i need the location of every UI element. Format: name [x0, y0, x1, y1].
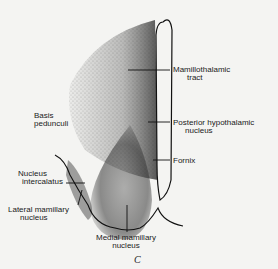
label-basis-pedunculi: Basis pedunculi — [34, 112, 68, 128]
label-lateral-mamillary-nucleus: Lateral mamillary nucleus — [8, 206, 69, 222]
label-fornix: Fornix — [173, 157, 195, 165]
label-medial-mamillary-nucleus: Medial mamillary nucleus — [96, 234, 156, 250]
label-posterior-hypothalamic-nucleus: Posterior hypothalamic nucleus — [173, 119, 254, 135]
panel-label: C — [134, 254, 141, 265]
label-nucleus-intercalatus: Nucleus intercalatus — [18, 170, 63, 186]
label-mamillothalamic-tract: Mamillothalamic tract — [173, 66, 230, 82]
ventricle-outline — [156, 20, 172, 200]
